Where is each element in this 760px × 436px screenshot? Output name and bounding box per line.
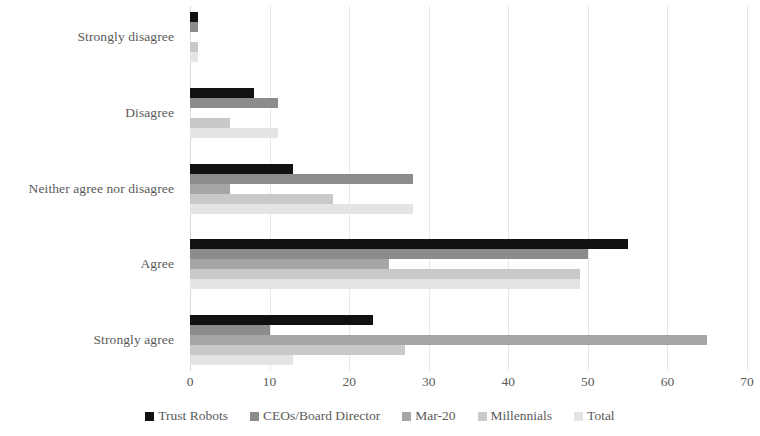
legend-label: Millennials [491, 408, 553, 424]
bar[interactable] [190, 239, 628, 249]
bar[interactable] [190, 279, 580, 289]
bar[interactable] [190, 184, 230, 194]
bar[interactable] [190, 52, 198, 62]
legend-label: CEOs/Board Director [263, 408, 380, 424]
bar[interactable] [190, 174, 413, 184]
bar[interactable] [190, 118, 230, 128]
gridline-70 [747, 6, 748, 371]
bar-group [190, 309, 747, 371]
x-tick-label: 40 [502, 374, 516, 390]
legend-swatch-icon [402, 412, 411, 421]
x-tick-label: 20 [342, 374, 356, 390]
legend-item[interactable]: Millennials [478, 408, 553, 424]
bar[interactable] [190, 259, 389, 269]
y-axis-label-3: Agree [0, 233, 182, 295]
bar-group [190, 158, 747, 220]
bar[interactable] [190, 315, 373, 325]
y-axis-label-1: Disagree [0, 82, 182, 144]
legend-item[interactable]: Trust Robots [145, 408, 228, 424]
legend-item[interactable]: CEOs/Board Director [250, 408, 380, 424]
bar-chart: Strongly disagree Disagree Neither agree… [0, 0, 760, 436]
bar[interactable] [190, 345, 405, 355]
x-tick-label: 30 [422, 374, 436, 390]
x-tick-label: 0 [187, 374, 194, 390]
bar[interactable] [190, 98, 278, 108]
y-axis-label-2: Neither agree nor disagree [0, 158, 182, 220]
x-tick-label: 70 [740, 374, 754, 390]
x-tick-label: 10 [263, 374, 277, 390]
bar[interactable] [190, 335, 707, 345]
y-axis-category-labels: Strongly disagree Disagree Neither agree… [0, 6, 182, 371]
bar[interactable] [190, 325, 270, 335]
bar[interactable] [190, 164, 293, 174]
x-tick-label: 50 [581, 374, 595, 390]
bar-group [190, 233, 747, 295]
legend-label: Mar-20 [415, 408, 455, 424]
bar[interactable] [190, 128, 278, 138]
bar[interactable] [190, 42, 198, 52]
x-axis-tick-labels: 010203040506070 [190, 374, 747, 396]
bar[interactable] [190, 249, 588, 259]
legend-item[interactable]: Mar-20 [402, 408, 455, 424]
bar-group [190, 82, 747, 144]
y-axis-label-0: Strongly disagree [0, 6, 182, 68]
bar[interactable] [190, 12, 198, 22]
chart-legend: Trust RobotsCEOs/Board DirectorMar-20Mil… [0, 408, 760, 424]
legend-swatch-icon [145, 412, 154, 421]
legend-swatch-icon [250, 412, 259, 421]
bar-group [190, 6, 747, 68]
bar[interactable] [190, 22, 198, 32]
legend-label: Total [587, 408, 615, 424]
bar[interactable] [190, 88, 254, 98]
legend-item[interactable]: Total [574, 408, 615, 424]
legend-swatch-icon [574, 412, 583, 421]
bar[interactable] [190, 194, 333, 204]
plot-area [190, 6, 747, 371]
bar[interactable] [190, 355, 293, 365]
legend-label: Trust Robots [158, 408, 228, 424]
bar[interactable] [190, 269, 580, 279]
y-axis-label-4: Strongly agree [0, 309, 182, 371]
bar[interactable] [190, 204, 413, 214]
bar-groups [190, 6, 747, 371]
legend-swatch-icon [478, 412, 487, 421]
x-tick-label: 60 [661, 374, 675, 390]
